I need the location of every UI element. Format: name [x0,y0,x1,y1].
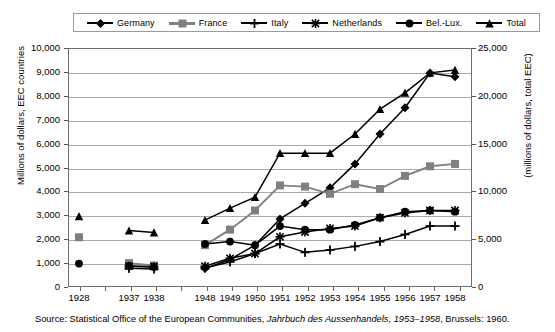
legend-label: Italy [271,18,288,28]
source-citation-italic: Jahrbuch des Aussenhandels, 1953–1958 [267,314,440,324]
data-point-square-marker [426,162,434,170]
data-point-circle-marker [426,207,434,215]
asterisk-marker [302,18,328,28]
y-axis-right-tick-label: 5,000 [478,233,528,244]
data-point-triangle-marker [251,193,259,201]
plus-marker-glyph [250,19,259,28]
legend-item-italy[interactable]: Italy [241,18,288,28]
circle-marker [396,18,422,28]
x-axis-tick-mark [80,287,81,291]
diamond-marker-glyph [96,19,105,28]
data-point-square-marker [301,183,309,191]
y-axis-left-tick-mark [64,239,68,240]
x-axis-tick-mark [207,287,208,291]
data-point-circle-marker [226,238,234,246]
x-axis-tick-mark [333,287,334,291]
data-point-circle-marker [376,214,384,222]
x-axis-tick-mark [308,287,309,291]
chart-legend: GermanyFranceItalyNetherlandsBel.-Lux.To… [73,13,540,32]
data-point-square-marker [376,185,384,193]
y-axis-right-tick-mark [472,191,476,192]
data-point-asterisk-marker [251,249,260,258]
x-axis-tick-label: 1928 [62,292,96,303]
y-axis-right-tick-mark [472,239,476,240]
legend-item-bel-lux[interactable]: Bel.-Lux. [396,18,462,28]
y-axis-left-tick-mark [64,215,68,216]
data-point-circle-marker [301,226,309,234]
data-point-square-marker [351,180,359,188]
data-point-triangle-marker [75,212,83,220]
x-axis-tick-mark [105,287,106,291]
y-axis-left-tick-mark [64,96,68,97]
data-point-asterisk-marker [226,254,235,263]
data-point-circle-marker [125,262,133,270]
x-axis-tick-mark [409,287,410,291]
circle-marker-glyph [405,19,414,28]
x-axis-tick-mark [384,287,385,291]
data-point-circle-marker [201,240,209,248]
legend-item-netherlands[interactable]: Netherlands [302,18,382,28]
series-italy [125,222,460,274]
x-axis-tick-mark [282,287,283,291]
data-point-square-marker [75,233,83,241]
y-axis-left-tick-mark [64,144,68,145]
legend-item-france[interactable]: France [169,18,228,28]
legend-label: Netherlands [332,18,382,28]
data-point-square-marker [251,207,259,215]
data-point-diamond-marker [301,199,310,208]
data-point-plus-marker [401,230,410,239]
y-axis-left-tick-mark [64,168,68,169]
x-axis-tick-mark [434,287,435,291]
y-axis-right-title: (millions of dollars, total EEC) [522,21,533,211]
y-axis-left-title: Millions of dollars, EEC countries [15,21,26,211]
asterisk-marker-glyph [311,19,320,28]
x-axis-tick-mark [358,287,359,291]
y-axis-right-tick-label: 25,000 [478,42,528,53]
x-axis-tick-mark [131,287,132,291]
chart-page: GermanyFranceItalyNetherlandsBel.-Lux.To… [0,0,555,332]
y-axis-right-tick-mark [472,287,476,288]
x-axis-tick-mark [460,287,461,291]
x-axis-tick-mark [257,287,258,291]
legend-label: Germany [117,18,155,28]
y-axis-left-tick-label: 1,000 [12,257,60,268]
x-axis-tick-label: 1938 [137,292,171,303]
data-point-plus-marker [426,222,435,231]
x-axis-tick-mark [181,287,182,291]
y-axis-left-tick-mark [64,120,68,121]
y-axis-left-tick-label: 2,000 [12,233,60,244]
legend-label: France [199,18,228,28]
y-axis-right-tick-label: 15,000 [478,138,528,149]
data-point-circle-marker [251,241,259,249]
x-axis-tick-label: 1958 [438,292,472,303]
data-point-asterisk-marker [276,232,285,241]
y-axis-left-tick-mark [64,72,68,73]
series-layer [68,48,472,287]
x-axis-tick-mark [232,287,233,291]
legend-item-germany[interactable]: Germany [87,18,155,28]
y-axis-right-tick-label: 0 [478,281,528,292]
data-point-circle-marker [276,222,284,230]
source-note: Source: Statistical Office of the Europe… [35,314,509,324]
data-point-plus-marker [326,245,335,254]
source-prefix: Source: Statistical Office of the Europe… [35,314,267,324]
data-point-square-marker [451,160,459,168]
data-point-square-marker [226,226,234,234]
y-axis-right-tick-label: 20,000 [478,90,528,101]
data-point-triangle-marker [376,105,384,113]
y-axis-left-tick-label: 3,000 [12,209,60,220]
y-axis-right-tick-label: 10,000 [478,185,528,196]
data-point-circle-marker [326,226,334,234]
data-point-asterisk-marker [201,262,210,271]
y-axis-right-tick-mark [472,144,476,145]
y-axis-left-tick-mark [64,263,68,264]
data-point-circle-marker [75,260,83,268]
series-line [129,231,154,233]
data-point-plus-marker [451,222,460,231]
triangle-marker-glyph [485,19,494,28]
legend-item-total[interactable]: Total [476,18,526,28]
data-point-circle-marker [150,263,158,271]
series-netherlands [125,206,460,271]
square-marker-glyph [178,19,187,28]
data-point-square-marker [326,190,334,198]
